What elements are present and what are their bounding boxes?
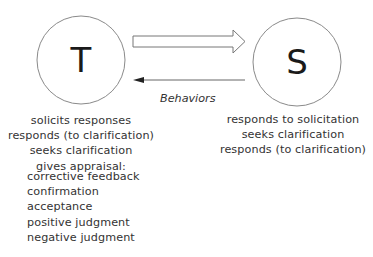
teacher-label: T xyxy=(70,40,92,80)
appraisal-type-item: acceptance xyxy=(27,199,140,214)
appraisal-type-item: corrective feedback xyxy=(27,169,140,184)
student-to-teacher-arrow-icon xyxy=(133,77,245,83)
student-behavior-item: responds (to clarification) xyxy=(212,142,373,157)
appraisal-type-item: positive judgment xyxy=(27,215,140,230)
student-behavior-item: seeks clarification xyxy=(212,127,373,142)
student-node: S xyxy=(253,18,341,106)
student-behavior-item: responds to solicitation xyxy=(212,112,373,127)
appraisal-type-item: negative judgment xyxy=(27,230,140,245)
teacher-behavior-item: solicits responses xyxy=(0,113,162,128)
teacher-behavior-item: seeks clarification xyxy=(0,143,162,158)
student-behaviors-list: responds to solicitation seeks clarifica… xyxy=(212,112,373,158)
teacher-node: T xyxy=(37,16,125,104)
teacher-to-student-arrow-icon xyxy=(133,30,245,53)
appraisal-types-list: corrective feedback confirmation accepta… xyxy=(27,169,140,245)
teacher-behaviors-list: solicits responses responds (to clarific… xyxy=(0,113,162,174)
appraisal-type-item: confirmation xyxy=(27,184,140,199)
student-label: S xyxy=(286,42,308,82)
teacher-behavior-item: responds (to clarification) xyxy=(0,128,162,143)
edge-label-behaviors: Behaviors xyxy=(160,92,216,105)
